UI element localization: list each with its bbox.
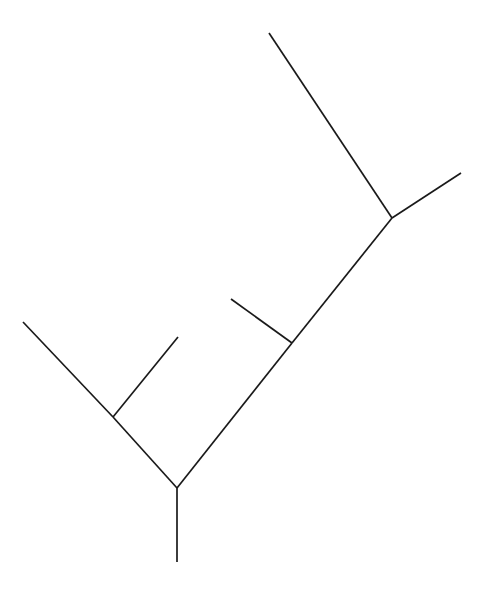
canvas-background	[0, 0, 490, 600]
tree-canvas	[0, 0, 490, 600]
phylogenetic-tree-figure	[0, 0, 490, 600]
